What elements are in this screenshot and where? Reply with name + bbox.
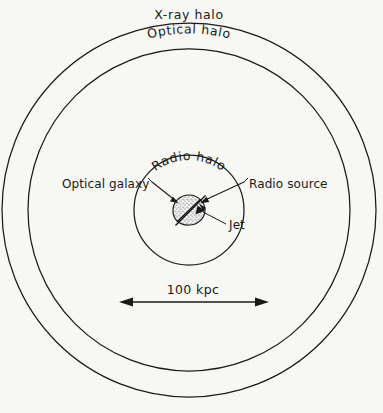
jet-label: Jet <box>228 218 245 232</box>
radio-halo-label: Radio halo <box>149 148 229 174</box>
jet-leader <box>203 212 226 224</box>
radio-source-core <box>173 195 206 226</box>
scale-bar-arrowhead-left <box>119 298 133 307</box>
optical-galaxy-label: Optical galaxy <box>62 177 149 191</box>
optical-halo-label: Optical halo <box>146 21 233 41</box>
diagram-canvas: X-ray halo Optical halo Radio halo Optic… <box>0 0 383 413</box>
scale-bar <box>119 298 269 307</box>
radio-halo-label-text: Radio halo <box>149 148 229 174</box>
scale-bar-arrowhead-right <box>255 298 269 307</box>
xray-halo-label: X-ray halo <box>154 7 223 22</box>
radio-source-label: Radio source <box>249 177 328 191</box>
scale-bar-label: 100 kpc <box>167 282 220 297</box>
radio-galaxy-diagram: X-ray halo Optical halo Radio halo Optic… <box>0 0 383 413</box>
optical-galaxy-leader <box>148 178 179 203</box>
optical-halo-label-text: Optical halo <box>146 21 233 41</box>
